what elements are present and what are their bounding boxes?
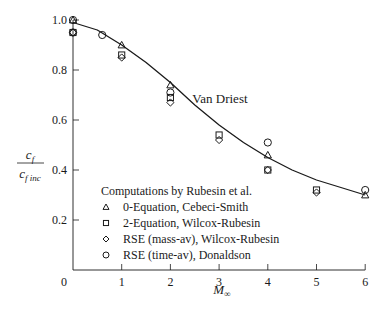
square-marker — [119, 52, 125, 58]
x-tick-label: 6 — [362, 275, 368, 289]
circle-marker — [362, 186, 369, 193]
legend-entry-label: RSE (time-av), Donaldson — [123, 248, 251, 262]
y-tick-label: 1.0 — [52, 13, 67, 27]
y-tick-label: 0.4 — [52, 163, 67, 177]
diamond-marker — [118, 54, 125, 61]
circle-marker — [167, 89, 174, 96]
van-driest-label: Van Driest — [192, 91, 248, 106]
circle-marker — [264, 139, 271, 146]
y-tick-label: 0.8 — [52, 63, 67, 77]
square-marker — [216, 132, 222, 138]
legend-entry-label: 2-Equation, Wilcox-Rubesin — [123, 216, 260, 230]
diamond-marker — [103, 236, 109, 242]
diamond-marker — [264, 166, 271, 173]
y-tick-label: 0.2 — [52, 213, 67, 227]
legend-entry-label: RSE (mass-av), Wilcox-Rubesin — [123, 232, 279, 246]
x-tick-label: 1 — [119, 275, 125, 289]
y-axis-label: cf cf inc — [17, 147, 44, 183]
x-tick-label: 2 — [167, 275, 173, 289]
skin-friction-chart: 0.20.40.60.81.00123456 Van Driest cf cf … — [0, 0, 383, 311]
x-tick-label: 0 — [61, 275, 67, 289]
van-driest-curve — [73, 23, 365, 196]
svg-text:cf: cf — [26, 147, 36, 164]
svg-text:cf inc: cf inc — [19, 166, 41, 183]
diamond-marker — [167, 99, 174, 106]
legend-title: Computations by Rubesin et al. — [101, 184, 252, 198]
triangle-marker — [103, 204, 109, 209]
circle-marker — [103, 252, 109, 258]
diamond-marker — [216, 136, 223, 143]
x-tick-label: 5 — [314, 275, 320, 289]
x-axis-label: M∞ — [212, 282, 230, 299]
x-tick-label: 4 — [265, 275, 271, 289]
square-marker — [313, 187, 319, 193]
y-tick-label: 0.6 — [52, 113, 67, 127]
diamond-marker — [313, 189, 320, 196]
data-points — [69, 16, 368, 197]
legend-entry-label: 0-Equation, Cebeci-Smith — [123, 200, 248, 214]
legend: Computations by Rubesin et al.0-Equation… — [101, 184, 279, 262]
square-marker — [103, 220, 108, 225]
